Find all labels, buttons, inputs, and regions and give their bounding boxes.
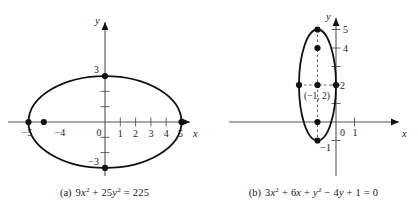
point-covertex-top-a bbox=[102, 73, 108, 79]
figure-root: −5 −4 0 1 2 3 4 5 3 −3 x y (a)9x2 + 25y2… bbox=[0, 0, 418, 217]
y-axis-label-a: y bbox=[94, 15, 100, 26]
y-axis-label-b: y bbox=[325, 11, 331, 22]
y-tick-label-b-2: 2 bbox=[340, 80, 345, 91]
caption-a: (a)9x2 + 25y2 = 225 bbox=[0, 186, 209, 200]
point-covertex-bottom-a bbox=[102, 165, 108, 171]
y-tick-label-a-1: −3 bbox=[88, 156, 99, 167]
caption-tag-a: (a) bbox=[60, 187, 72, 198]
x-tick-label-b-0: 0 bbox=[340, 127, 345, 138]
caption-equation-a: 9x2 + 25y2 = 225 bbox=[76, 187, 150, 198]
x-tick-label-b-1: 1 bbox=[353, 127, 358, 138]
x-tick-label-a-7: 5 bbox=[178, 128, 183, 139]
point-focus-lower-b bbox=[314, 119, 320, 125]
y-tick-label-a-0: 3 bbox=[94, 64, 99, 75]
ellipse-plot-a: −5 −4 0 1 2 3 4 5 3 −3 x y bbox=[0, 0, 209, 186]
point-vertex-right-a bbox=[178, 119, 184, 125]
caption-b: (b)3x2 + 6x + y2 − 4y + 1 = 0 bbox=[209, 186, 418, 200]
x-tick-label-a-4: 2 bbox=[133, 128, 138, 139]
x-tick-label-a-6: 4 bbox=[164, 128, 169, 139]
figure-panel-a: −5 −4 0 1 2 3 4 5 3 −3 x y (a)9x2 + 25y2… bbox=[0, 0, 209, 217]
ellipse-plot-b: 5 4 2 −1 0 1 (−1, 2) x y bbox=[209, 0, 418, 186]
y-tick-label-b-3: −1 bbox=[320, 142, 331, 153]
point-center-b bbox=[314, 82, 320, 88]
point-focus-left-a bbox=[41, 119, 47, 125]
x-tick-label-a-0: −5 bbox=[22, 127, 33, 138]
x-axis-a bbox=[8, 119, 190, 126]
caption-tag-b: (b) bbox=[249, 187, 261, 198]
x-tick-label-a-3: 1 bbox=[118, 128, 123, 139]
point-vertex-top-b bbox=[314, 26, 320, 32]
x-axis-label-a: x bbox=[192, 128, 198, 139]
center-point-label-b: (−1, 2) bbox=[304, 91, 330, 102]
caption-equation-b: 3x2 + 6x + y2 − 4y + 1 = 0 bbox=[265, 187, 378, 198]
point-vertex-left-a bbox=[25, 119, 31, 125]
y-tick-label-b-1: 4 bbox=[343, 43, 348, 54]
x-axis-label-b: x bbox=[401, 128, 407, 139]
x-axis-b bbox=[229, 119, 399, 126]
x-tick-label-a-1: −4 bbox=[55, 127, 66, 138]
x-tick-label-a-5: 3 bbox=[148, 128, 153, 139]
figure-panel-b: 5 4 2 −1 0 1 (−1, 2) x y (b)3x2 + 6x + y… bbox=[209, 0, 418, 217]
point-covertex-left-b bbox=[296, 82, 302, 88]
point-covertex-right-b bbox=[333, 82, 339, 88]
y-tick-label-b-0: 5 bbox=[343, 24, 348, 35]
point-focus-upper-b bbox=[314, 45, 320, 51]
x-tick-label-a-2: 0 bbox=[97, 127, 102, 138]
